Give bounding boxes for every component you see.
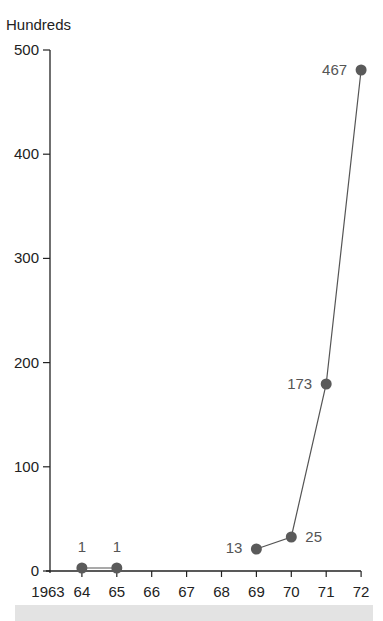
y-axis: 0100200300400500	[14, 41, 50, 579]
data-point-marker	[251, 544, 262, 555]
data-point-marker	[286, 532, 297, 543]
data-point-marker	[321, 379, 332, 390]
data-label: 25	[305, 528, 322, 545]
x-tick-label: 72	[353, 583, 370, 600]
y-tick-label: 0	[31, 562, 39, 579]
y-tick-label: 100	[14, 458, 39, 475]
y-tick-label: 500	[14, 41, 39, 58]
x-tick-label: 70	[283, 583, 300, 600]
y-tick-label: 300	[14, 249, 39, 266]
data-point-marker	[356, 65, 367, 76]
x-tick-label: 67	[178, 583, 195, 600]
data-point-marker	[111, 563, 122, 574]
data-label: 173	[287, 375, 312, 392]
data-points: 111325173467	[76, 61, 366, 574]
x-tick-label: 64	[74, 583, 91, 600]
x-tick-label: 65	[108, 583, 125, 600]
x-tick-label: 1963	[31, 583, 64, 600]
y-tick-label: 400	[14, 145, 39, 162]
x-tick-label: 68	[213, 583, 230, 600]
data-label: 1	[113, 538, 121, 555]
y-axis-title: Hundreds	[6, 16, 71, 33]
data-label: 1	[78, 538, 86, 555]
x-tick-label: 69	[248, 583, 265, 600]
x-tick-label: 71	[318, 583, 335, 600]
line-chart: Hundreds 0100200300400500 19636465666768…	[0, 0, 383, 621]
data-label: 467	[322, 61, 347, 78]
y-tick-label: 200	[14, 354, 39, 371]
data-label: 13	[226, 539, 243, 556]
data-lines	[82, 70, 361, 568]
footer-bar	[15, 605, 373, 621]
data-point-marker	[76, 563, 87, 574]
x-axis: 1963646566676869707172	[31, 571, 369, 600]
x-tick-label: 66	[143, 583, 160, 600]
